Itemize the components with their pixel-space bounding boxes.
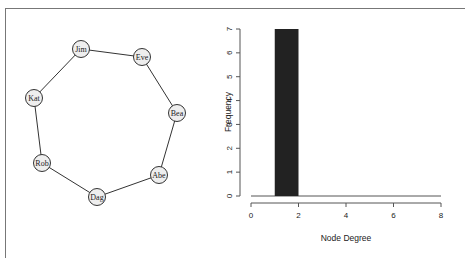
y-tick-label: 3 [225, 122, 234, 127]
x-tick-label: 2 [296, 211, 301, 220]
y-tick-label: 2 [225, 146, 234, 151]
x-axis-title: Node Degree [321, 233, 372, 243]
x-axis: 02468 [249, 203, 444, 220]
x-tick-label: 8 [439, 211, 444, 220]
y-tick-label: 6 [225, 50, 234, 55]
x-tick-label: 6 [391, 211, 396, 220]
x-tick-label: 0 [249, 211, 254, 220]
y-tick-label: 7 [225, 26, 234, 31]
histogram-bar [275, 29, 299, 196]
y-tick-label: 1 [225, 169, 234, 174]
x-tick-label: 4 [344, 211, 349, 220]
y-tick-label: 5 [225, 74, 234, 79]
y-tick-label: 0 [225, 193, 234, 198]
y-tick-label: 4 [225, 98, 234, 103]
